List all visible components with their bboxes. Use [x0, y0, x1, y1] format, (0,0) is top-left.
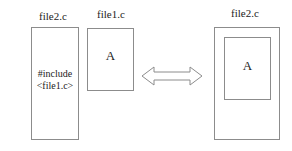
include-expansion-diagram: file2.c #include <file1.c> file1.c A fil…: [0, 0, 292, 151]
block-a-label-right: A: [225, 59, 270, 72]
middle-file1-box: A: [87, 28, 134, 91]
right-file2-box: A: [214, 27, 280, 140]
double-headed-arrow-icon: [141, 64, 203, 88]
left-file2-box: #include <file1.c>: [31, 27, 79, 140]
block-a-label-middle: A: [88, 49, 133, 62]
equivalence-arrow: [141, 64, 203, 88]
include-directive-text: #include <file1.c>: [32, 68, 78, 92]
middle-file1-caption: file1.c: [83, 8, 139, 20]
expanded-block-a-box: A: [224, 37, 271, 100]
right-file2-caption: file2.c: [205, 7, 285, 19]
